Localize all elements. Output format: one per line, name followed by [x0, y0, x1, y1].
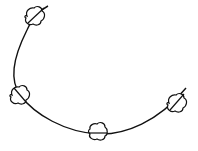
cloud-node-bottom	[89, 123, 108, 140]
curve-line	[14, 6, 186, 134]
cloud-node-top	[25, 7, 45, 25]
diagram-canvas	[0, 0, 198, 151]
cloud-node-left	[10, 86, 30, 104]
cloud-node-right	[167, 94, 187, 112]
